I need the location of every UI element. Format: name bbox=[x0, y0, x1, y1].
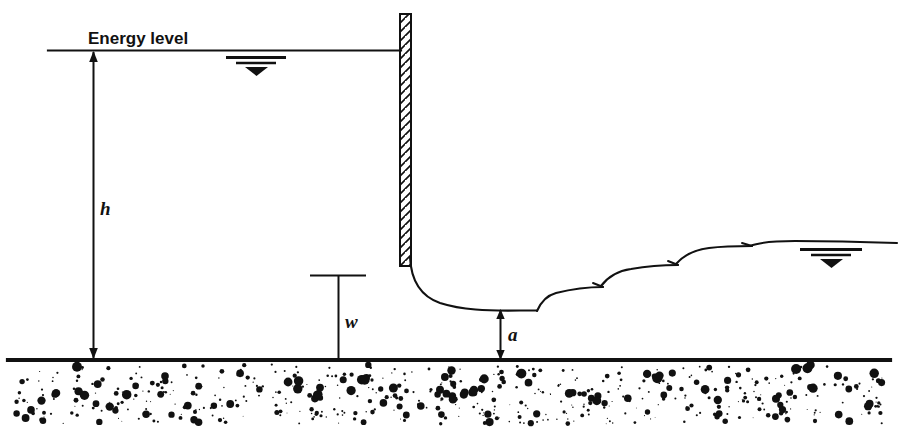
soil-dot bbox=[532, 368, 535, 371]
soil-dot bbox=[212, 415, 214, 417]
soil-dot bbox=[758, 407, 762, 411]
soil-dot bbox=[92, 407, 95, 410]
soil-dot bbox=[82, 405, 84, 407]
soil-dot bbox=[518, 415, 522, 419]
soil-dot bbox=[246, 375, 250, 379]
soil-dot bbox=[869, 369, 878, 378]
soil-dot bbox=[284, 370, 286, 372]
soil-dot bbox=[134, 394, 138, 398]
soil-dot bbox=[165, 391, 168, 394]
soil-dot bbox=[262, 385, 264, 387]
soil-dot bbox=[382, 378, 383, 379]
soil-dot bbox=[191, 391, 196, 396]
soil-dot bbox=[843, 376, 848, 381]
soil-dot bbox=[95, 392, 96, 393]
soil-dot bbox=[143, 413, 145, 415]
soil-dot bbox=[81, 366, 84, 369]
soil-dot bbox=[42, 394, 44, 396]
soil-dot bbox=[622, 396, 624, 398]
soil-dot bbox=[187, 405, 190, 408]
soil-dot bbox=[872, 378, 874, 380]
soil-dot bbox=[168, 412, 174, 418]
soil-dot bbox=[739, 387, 742, 390]
soil-dot bbox=[368, 387, 369, 388]
soil-dot bbox=[201, 386, 203, 388]
soil-dot bbox=[385, 395, 389, 399]
soil-dot bbox=[157, 391, 164, 398]
dimension-w: w bbox=[310, 276, 366, 361]
dimension-h-arrow-down bbox=[89, 348, 98, 359]
soil-dot bbox=[587, 409, 590, 412]
soil-dot bbox=[486, 418, 494, 426]
soil-dot bbox=[842, 402, 844, 404]
soil-dot bbox=[170, 394, 171, 395]
soil-dot bbox=[694, 379, 699, 384]
soil-dot bbox=[50, 413, 52, 415]
dimension-a-label: a bbox=[508, 324, 518, 345]
soil-dot bbox=[643, 370, 651, 378]
soil-dot bbox=[43, 416, 44, 417]
soil-dot bbox=[201, 364, 204, 367]
soil-dot bbox=[346, 386, 355, 395]
soil-dot bbox=[624, 412, 626, 414]
soil-dot bbox=[497, 384, 502, 389]
soil-dot bbox=[609, 405, 610, 406]
soil-dot bbox=[772, 413, 779, 420]
soil-dot bbox=[871, 386, 872, 387]
soil-dot bbox=[139, 366, 141, 368]
soil-dot bbox=[845, 386, 852, 393]
soil-dot bbox=[528, 420, 534, 426]
soil-dot bbox=[679, 387, 684, 392]
soil-dot bbox=[453, 397, 458, 402]
soil-dot bbox=[636, 408, 637, 409]
soil-dot bbox=[460, 391, 468, 399]
soil-dot bbox=[298, 422, 300, 424]
soil-dot bbox=[763, 409, 765, 411]
dimension-h-label: h bbox=[100, 198, 111, 219]
soil-dot bbox=[662, 380, 665, 383]
soil-dot bbox=[309, 407, 313, 411]
soil-dot bbox=[394, 368, 396, 370]
soil-dot bbox=[81, 369, 82, 370]
soil-dot bbox=[148, 390, 150, 392]
soil-dot bbox=[478, 385, 485, 392]
soil-dot bbox=[757, 397, 761, 401]
soil-dot bbox=[728, 406, 729, 407]
soil-dot bbox=[448, 374, 452, 378]
soil-dot bbox=[536, 421, 538, 423]
soil-dot bbox=[624, 395, 632, 403]
soil-dot bbox=[100, 377, 105, 382]
soil-dot bbox=[335, 375, 338, 378]
sluice-gate-diagram: Energy level h w bbox=[0, 0, 919, 440]
soil-dot bbox=[294, 376, 303, 385]
soil-dot bbox=[481, 409, 483, 411]
soil-dot bbox=[684, 397, 685, 398]
soil-dot bbox=[441, 373, 449, 381]
soil-dot bbox=[337, 385, 339, 387]
soil-dot bbox=[333, 408, 335, 410]
soil-dot bbox=[527, 408, 528, 409]
soil-dot bbox=[318, 379, 320, 381]
soil-dot bbox=[448, 366, 449, 367]
soil-dot bbox=[400, 418, 401, 419]
soil-dot bbox=[606, 423, 607, 424]
soil-dot bbox=[370, 378, 373, 381]
soil-dot bbox=[370, 410, 375, 415]
soil-dot bbox=[253, 377, 255, 379]
soil-dot bbox=[374, 408, 376, 410]
soil-dot bbox=[784, 385, 785, 386]
soil-dot bbox=[682, 367, 684, 369]
soil-dot bbox=[823, 383, 826, 386]
soil-dot bbox=[403, 373, 406, 376]
soil-dot bbox=[356, 395, 358, 397]
soil-dot bbox=[493, 413, 495, 415]
soil-dot bbox=[195, 376, 198, 379]
soil-dot bbox=[666, 385, 672, 391]
soil-dot bbox=[667, 383, 669, 385]
soil-dot bbox=[772, 395, 780, 403]
soil-dot bbox=[436, 386, 444, 394]
soil-dot bbox=[219, 398, 221, 400]
soil-dot bbox=[331, 375, 333, 377]
soil-dot bbox=[118, 418, 119, 419]
jet-profile-curve bbox=[410, 257, 537, 311]
